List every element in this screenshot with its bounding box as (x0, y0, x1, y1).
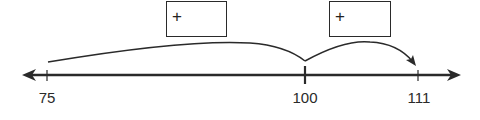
plus-sign: + (335, 8, 345, 25)
jump-box-1[interactable]: + (166, 1, 227, 37)
jump-arc-1 (48, 42, 305, 62)
jump-box-2[interactable]: + (329, 1, 391, 37)
number-line-diagram: + + 75 100 111 (0, 0, 480, 120)
tick-label-111: 111 (408, 90, 431, 105)
plus-sign: + (172, 8, 182, 25)
jump-arc-2 (305, 42, 413, 62)
tick-label-100: 100 (292, 90, 317, 105)
tick-label-75: 75 (39, 90, 56, 105)
